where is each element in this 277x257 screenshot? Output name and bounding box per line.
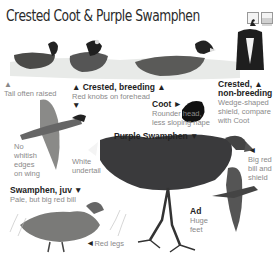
illustration [0, 0, 277, 257]
crested-nonbreeding-head [236, 29, 264, 70]
label-swamphen-juv: Swamphen, juv ▼ Pale, but big red bill [10, 186, 83, 204]
label-white-undertail: White undertail [72, 157, 101, 175]
label-coot: Coot ► Rounder head, less sloping nape [152, 100, 210, 127]
label-adult: Ad Huge feet [190, 207, 208, 234]
label-big-red-bill: ◄ Big red bill and shield [248, 146, 272, 182]
label-tail-raised: ▲Tail often raised [4, 80, 57, 98]
label-no-whitish-edges: No whitish edges on wing [14, 142, 40, 178]
label-crested-nonbreeding: Crested, ▲ non-breeding Wedge-shaped shi… [218, 80, 272, 125]
label-purple-swamphen: Purple Swamphen ▼ [114, 132, 198, 141]
label-red-legs: ◄Red legs [86, 239, 124, 248]
